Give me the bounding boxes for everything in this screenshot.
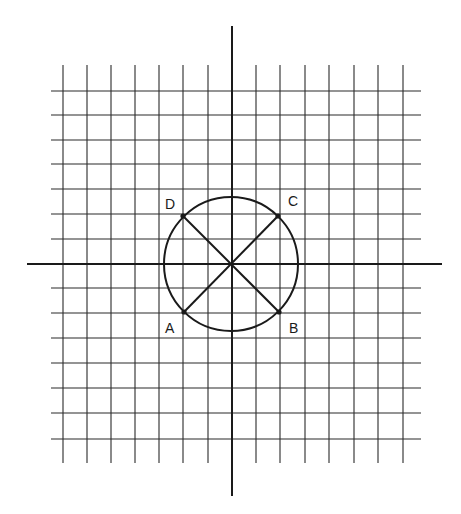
point-a	[181, 309, 186, 314]
point-label-d: D	[165, 197, 175, 211]
point-b	[276, 309, 281, 314]
point-c	[275, 213, 280, 218]
point-label-b: B	[289, 321, 298, 335]
point-label-c: C	[288, 194, 298, 208]
coordinate-diagram	[0, 0, 461, 514]
point-label-a: A	[165, 321, 174, 335]
point-d	[180, 213, 185, 218]
